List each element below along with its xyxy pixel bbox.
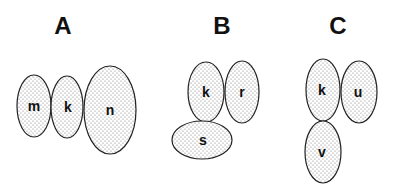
cell-r: r bbox=[225, 61, 259, 123]
panel-label: C bbox=[329, 12, 346, 39]
panel-label: B bbox=[213, 12, 230, 39]
cell-k: k bbox=[51, 76, 83, 138]
cell-n: n bbox=[84, 66, 136, 154]
cell-label: r bbox=[239, 84, 245, 100]
cell-s: s bbox=[172, 121, 232, 159]
cell-k: k bbox=[188, 62, 224, 122]
cell-label: k bbox=[64, 99, 72, 115]
cell-label: s bbox=[199, 132, 207, 148]
cell-label: n bbox=[106, 102, 115, 118]
cell-u: u bbox=[341, 61, 377, 123]
cell-label: k bbox=[202, 84, 210, 100]
panel-label: A bbox=[54, 12, 71, 39]
cell-k: k bbox=[306, 59, 340, 121]
cell-label: u bbox=[354, 84, 363, 100]
panel-c: C k u v bbox=[305, 12, 377, 183]
panel-a: A m k n bbox=[17, 12, 136, 154]
cell-m: m bbox=[17, 75, 51, 137]
cell-label: k bbox=[318, 82, 326, 98]
panel-b: B k r s bbox=[172, 12, 259, 159]
cell-arrangement-diagram: A m k n B k r s C bbox=[0, 0, 397, 192]
cell-label: m bbox=[28, 98, 40, 114]
cell-v: v bbox=[305, 121, 341, 183]
cell-label: v bbox=[318, 144, 326, 160]
